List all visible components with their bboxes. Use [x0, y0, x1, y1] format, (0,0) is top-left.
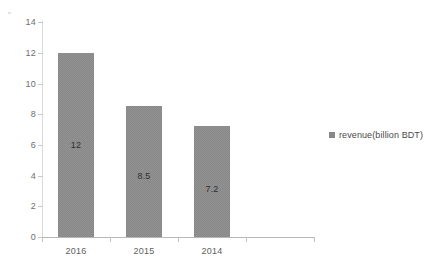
bar-value-2016: 12 — [58, 140, 94, 150]
bar-2014[interactable] — [194, 126, 230, 237]
bar-value-2014: 7.2 — [194, 184, 230, 194]
y-axis-label-12: 12 — [10, 49, 36, 58]
x-axis-tick — [110, 237, 111, 242]
y-axis-label-wrap: 2 — [0, 202, 36, 211]
y-axis-label-wrap: 10 — [0, 80, 36, 89]
x-axis-tick — [246, 237, 247, 242]
legend-label-revenue: revenue(billion BDT) — [339, 130, 423, 140]
y-axis-label-4: 4 — [10, 172, 36, 181]
image-speck — [8, 12, 11, 14]
x-axis-label-2016: 2016 — [42, 246, 110, 256]
y-axis-label-10: 10 — [10, 80, 36, 89]
y-axis-tick — [38, 22, 43, 23]
y-axis-label-14: 14 — [10, 18, 36, 27]
y-axis-label-2: 2 — [10, 202, 36, 211]
chart-legend: revenue(billion BDT) — [329, 130, 423, 140]
y-axis-label-8: 8 — [10, 110, 36, 119]
x-axis-label-2014: 2014 — [178, 246, 246, 256]
bar-chart: 0 2 4 6 8 10 12 14 12 8.5 7.2 2016 2015 — [0, 0, 443, 276]
y-axis-tick — [38, 114, 43, 115]
y-axis-tick — [38, 84, 43, 85]
y-axis-label-wrap: 6 — [0, 141, 36, 150]
y-axis-label-wrap: 4 — [0, 172, 36, 181]
y-axis-label-wrap: 0 — [0, 233, 36, 242]
y-axis-tick — [38, 145, 43, 146]
y-axis-label-0: 0 — [10, 233, 36, 242]
legend-swatch-icon — [329, 132, 335, 138]
x-axis-tick — [314, 237, 315, 242]
y-axis-label-wrap: 12 — [0, 49, 36, 58]
y-axis-tick — [38, 206, 43, 207]
y-axis-label-wrap: 8 — [0, 110, 36, 119]
y-axis-label-wrap: 14 — [0, 18, 36, 27]
y-axis-tick — [38, 53, 43, 54]
y-axis-label-6: 6 — [10, 141, 36, 150]
x-axis-tick — [42, 237, 43, 242]
x-axis-tick — [178, 237, 179, 242]
x-axis-label-2015: 2015 — [110, 246, 178, 256]
bar-value-2015: 8.5 — [126, 171, 162, 181]
y-axis-tick — [38, 176, 43, 177]
